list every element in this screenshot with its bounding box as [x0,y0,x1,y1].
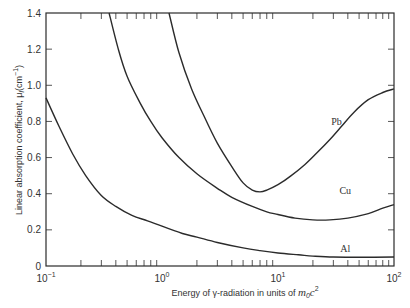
plot-frame [46,13,394,266]
y-tick-label: 0.4 [27,188,41,199]
y-tick-label: 0.2 [27,224,41,235]
x-tick-label: 102 [386,271,401,284]
y-tick-label: 1.0 [27,80,41,91]
x-tick-label: 10−1 [36,271,55,284]
series-labels: PbCuAl [331,116,351,254]
absorption-coefficient-chart: 10−1100101102 00.20.40.60.81.01.21.4 PbC… [0,0,410,308]
y-tick-label: 1.4 [27,8,41,19]
y-axis-label: Linear absorption coefficient, μl(cm−1) [12,65,25,215]
x-axis-label: Energy of γ-radiation in units of m0c2 [171,285,318,299]
series-label-al: Al [340,243,350,254]
series-label-cu: Cu [339,185,351,196]
y-tick-label: 1.2 [27,44,41,55]
y-tick-label: 0 [35,261,41,272]
x-tick-label: 100 [154,271,169,284]
curve-pb [169,13,394,192]
plot-border [46,13,394,266]
x-tick-label: 101 [270,271,285,284]
series-curves [46,13,394,257]
series-label-pb: Pb [331,116,342,127]
y-axis-ticks: 00.20.40.60.81.01.21.4 [27,8,394,272]
y-tick-label: 0.8 [27,116,41,127]
y-tick-label: 0.6 [27,152,41,163]
